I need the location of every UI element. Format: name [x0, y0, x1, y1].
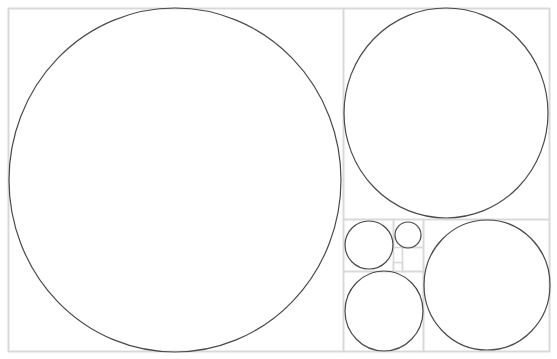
- circle-a: [9, 8, 341, 352]
- outer-rect: [9, 9, 550, 352]
- square-h-rect: [394, 263, 403, 272]
- grid-rectangles: [9, 9, 550, 352]
- inscribed-circles: [9, 8, 550, 352]
- square-g-rect: [403, 248, 424, 272]
- circle-d: [345, 271, 423, 351]
- circle-c: [424, 220, 550, 350]
- circle-b: [344, 8, 548, 218]
- circle-e: [345, 221, 393, 269]
- golden-ratio-diagram: [0, 0, 557, 359]
- circle-f: [395, 222, 421, 248]
